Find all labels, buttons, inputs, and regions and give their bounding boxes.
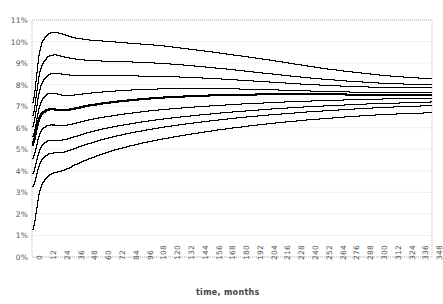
x-tick-label: 300 bbox=[380, 245, 389, 260]
x-tick-label: 288 bbox=[366, 245, 375, 260]
x-tick-label: 120 bbox=[173, 245, 182, 260]
x-tick-label: 132 bbox=[187, 245, 196, 260]
x-tick-label: 276 bbox=[352, 245, 361, 260]
x-axis-title: time, months bbox=[196, 288, 260, 297]
x-tick-label: 24 bbox=[63, 250, 72, 260]
chart-container: 0%1%2%3%4%5%6%7%8%9%10%11% 0122436486072… bbox=[0, 0, 443, 304]
x-tick-label: 336 bbox=[421, 245, 430, 260]
x-tick-label: 204 bbox=[270, 245, 279, 260]
x-tick-label: 180 bbox=[242, 245, 251, 260]
x-tick-label: 264 bbox=[339, 245, 348, 260]
x-tick-label: 252 bbox=[325, 245, 334, 260]
x-tick-label: 216 bbox=[283, 245, 292, 260]
x-tick-label: 228 bbox=[297, 245, 306, 260]
x-tick-label: 108 bbox=[159, 245, 168, 260]
x-tick-label: 48 bbox=[90, 250, 99, 260]
x-tick-label: 312 bbox=[394, 245, 403, 260]
x-tick-label: 144 bbox=[201, 245, 210, 260]
x-tick-label: 156 bbox=[215, 245, 224, 260]
x-tick-label: 96 bbox=[146, 250, 155, 260]
x-tick-label: 12 bbox=[49, 250, 58, 260]
x-tick-label: 324 bbox=[408, 245, 417, 260]
x-tick-label: 0 bbox=[35, 255, 44, 260]
x-tick-label: 348 bbox=[435, 245, 443, 260]
x-tick-label: 168 bbox=[228, 245, 237, 260]
x-tick-label: 60 bbox=[104, 250, 113, 260]
x-tick-label: 240 bbox=[311, 245, 320, 260]
x-tick-label: 72 bbox=[118, 250, 127, 260]
x-tick-label: 84 bbox=[132, 250, 141, 260]
x-tick-label: 36 bbox=[77, 250, 86, 260]
x-tick-label: 192 bbox=[256, 245, 265, 260]
x-axis-tick-labels: 0122436486072849610812013214415616818019… bbox=[0, 0, 443, 304]
